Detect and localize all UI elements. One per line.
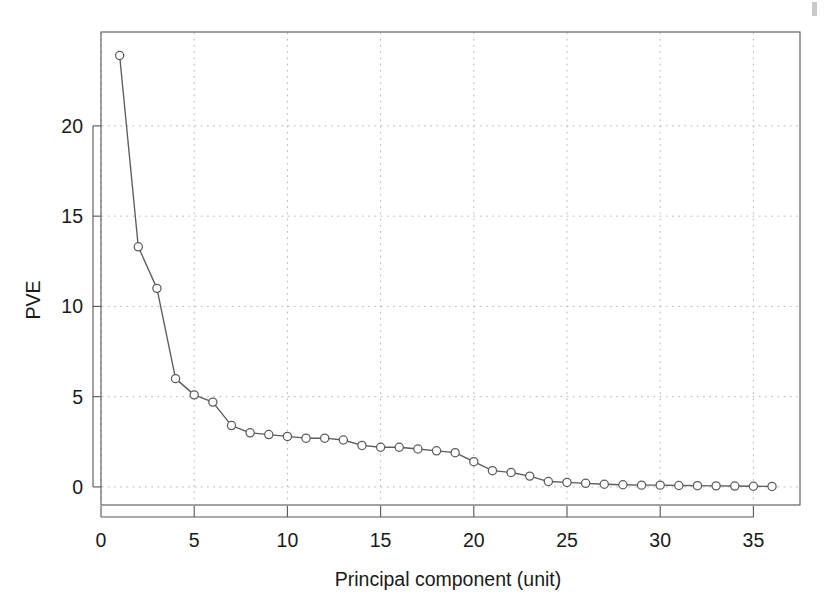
data-point-marker: [153, 284, 161, 292]
data-point-marker: [693, 482, 701, 490]
data-point-marker: [171, 375, 179, 383]
data-point-marker: [563, 478, 571, 486]
x-tick-label: 0: [96, 529, 107, 551]
data-point-marker: [526, 472, 534, 480]
data-point-marker: [488, 467, 496, 475]
data-point-marker: [414, 445, 422, 453]
data-point-marker: [116, 51, 124, 59]
data-point-marker: [321, 434, 329, 442]
scree-plot-svg: 05101520 05101520253035 Principal compon…: [0, 0, 826, 608]
data-point-marker: [507, 468, 515, 476]
data-point-marker: [339, 436, 347, 444]
y-tick-label: 5: [72, 386, 83, 408]
y-tick-label: 0: [72, 476, 83, 498]
data-point-marker: [544, 477, 552, 485]
data-point-marker: [637, 481, 645, 489]
x-axis-title: Principal component (unit): [335, 568, 562, 590]
data-point-marker: [209, 398, 217, 406]
x-tick-label: 30: [649, 529, 671, 551]
data-point-marker: [302, 434, 310, 442]
data-point-marker: [358, 441, 366, 449]
data-point-marker: [675, 481, 683, 489]
data-point-marker: [227, 421, 235, 429]
data-point-marker: [600, 480, 608, 488]
data-point-marker: [432, 447, 440, 455]
x-tick-label: 15: [370, 529, 392, 551]
data-point-marker: [190, 391, 198, 399]
data-point-marker: [582, 479, 590, 487]
data-point-marker: [470, 458, 478, 466]
data-point-marker: [731, 482, 739, 490]
data-point-marker: [451, 449, 459, 457]
scan-smudge-artifact: [812, 2, 817, 16]
x-tick-label: 20: [463, 529, 485, 551]
data-point-marker: [265, 430, 273, 438]
x-tick-label: 35: [743, 529, 765, 551]
y-tick-label: 10: [61, 295, 83, 317]
x-tick-label: 10: [277, 529, 299, 551]
data-point-marker: [246, 429, 254, 437]
x-tick-label: 5: [189, 529, 200, 551]
data-point-marker: [283, 432, 291, 440]
data-point-marker: [712, 482, 720, 490]
y-axis-title: PVE: [22, 280, 44, 319]
data-point-marker: [619, 481, 627, 489]
data-point-marker: [656, 481, 664, 489]
data-point-marker: [768, 482, 776, 490]
data-point-marker: [395, 443, 403, 451]
scree-plot-figure: 05101520 05101520253035 Principal compon…: [0, 0, 826, 608]
data-point-marker: [134, 243, 142, 251]
x-tick-label: 25: [556, 529, 578, 551]
y-tick-label: 15: [61, 205, 83, 227]
y-tick-label: 20: [61, 115, 83, 137]
data-point-marker: [377, 443, 385, 451]
data-point-marker: [749, 482, 757, 490]
